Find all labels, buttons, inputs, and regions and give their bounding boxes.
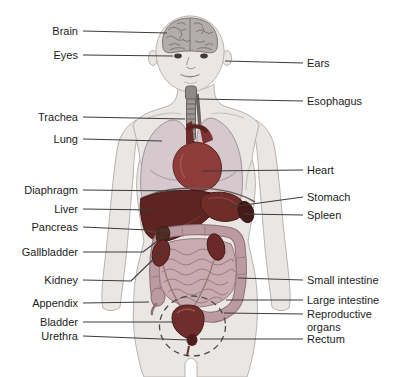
label-liver: Liver [54,203,78,215]
label-rectum: Rectum [307,333,345,345]
left-eye [174,54,182,59]
label-ears: Ears [307,57,330,69]
label-kidney: Kidney [44,274,78,286]
label-reproductive-organs: Reproductiveorgans [307,308,372,333]
label-bladder: Bladder [40,316,78,328]
label-small-intestine: Small intestine [307,274,379,286]
anatomy-diagram: BrainEyesTracheaLungDiaphragmLiverPancre… [0,0,396,377]
label-gallbladder: Gallbladder [22,246,79,258]
right-arm [252,120,290,311]
right-eye [200,54,208,59]
label-appendix: Appendix [32,297,78,309]
label-esophagus: Esophagus [307,95,363,107]
rectum-shape [187,334,198,346]
label-eyes: Eyes [54,49,79,61]
label-trachea: Trachea [38,111,79,123]
label-lung: Lung [54,133,78,145]
leader-line-ears [225,61,303,63]
leader-line-brain [83,31,167,33]
label-heart: Heart [307,164,334,176]
label-spleen: Spleen [307,209,341,221]
cecum-shape [151,288,165,306]
label-brain: Brain [52,25,78,37]
label-large-intestine: Large intestine [307,294,379,306]
label-diaphragm: Diaphragm [24,184,78,196]
label-pancreas: Pancreas [32,221,79,233]
left-arm [102,120,140,311]
label-stomach: Stomach [307,191,350,203]
human-body-illustration: BrainEyesTracheaLungDiaphragmLiverPancre… [0,0,396,377]
label-urethra: Urethra [41,330,79,342]
